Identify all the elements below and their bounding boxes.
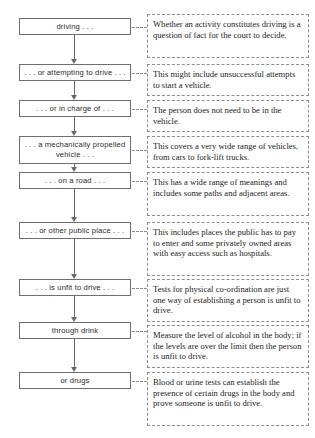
arrow-head-icon xyxy=(71,131,77,136)
connector-drugs xyxy=(132,381,147,382)
flow-box-mechanically-propelled-vehicle[interactable]: . . . a mechanically propelled vehicle .… xyxy=(19,136,131,164)
note-text: Blood or urine tests can establish the p… xyxy=(153,377,303,409)
connector-in-charge xyxy=(132,109,147,110)
flow-box-label: driving . . . xyxy=(57,22,94,32)
flow-box-or-drugs[interactable]: or drugs xyxy=(19,372,131,389)
flow-box-driving[interactable]: driving . . . xyxy=(19,18,131,35)
flow-box-unfit-to-drive[interactable]: . . . is unfit to drive . . . xyxy=(19,279,131,296)
flow-box-label: . . . a mechanically propelled vehicle .… xyxy=(25,140,126,160)
arrow-unfit-to-drink xyxy=(74,296,75,317)
flow-box-label: through drink xyxy=(52,326,98,336)
flow-box-label: . . . or other public place . . . xyxy=(26,226,125,236)
flow-box-through-drink[interactable]: through drink xyxy=(19,322,131,339)
arrow-head-icon xyxy=(71,367,77,372)
connector-driving xyxy=(132,27,147,28)
arrow-head-icon xyxy=(71,274,77,279)
arrow-head-icon xyxy=(71,217,77,222)
arrow-attempting-to-in-charge xyxy=(74,81,75,95)
flow-box-label: . . . on a road . . . xyxy=(45,176,106,186)
arrow-drink-to-drugs xyxy=(74,339,75,367)
note-text: Measure the level of alcohol in the body… xyxy=(153,330,303,362)
connector-public-place xyxy=(132,231,147,232)
arrow-driving-to-attempting xyxy=(74,35,75,59)
arrow-road-to-public-place xyxy=(74,189,75,217)
flow-box-in-charge-of[interactable]: . . . or in charge of . . . xyxy=(19,100,131,117)
note-text: Whether an activity constitutes driving … xyxy=(153,19,303,40)
arrow-head-icon xyxy=(71,167,77,172)
flow-box-on-a-road[interactable]: . . . on a road . . . xyxy=(19,172,131,189)
arrow-head-icon xyxy=(71,317,77,322)
connector-unfit xyxy=(132,288,147,289)
connector-drink xyxy=(132,331,147,332)
flow-box-label: . . . is unfit to drive . . . xyxy=(36,283,115,293)
connector-attempting xyxy=(132,73,147,74)
flowchart-diagram: driving . . . . . . or attempting to dri… xyxy=(0,0,315,438)
note-box-unfit: Tests for physical co-ordination are jus… xyxy=(147,279,309,322)
flow-box-label: . . . or in charge of . . . xyxy=(36,104,114,114)
arrow-in-charge-to-vehicle xyxy=(74,117,75,131)
note-box-attempting: This might include unsuccessful attempts… xyxy=(147,64,309,96)
note-text: Tests for physical co-ordination are jus… xyxy=(153,284,303,316)
note-box-drink: Measure the level of alcohol in the body… xyxy=(147,325,309,368)
flow-box-other-public-place[interactable]: . . . or other public place . . . xyxy=(19,222,131,239)
connector-road xyxy=(132,181,147,182)
note-box-in-charge: The person does not need to be in the ve… xyxy=(147,100,309,132)
note-box-road: This has a wide range of meanings and in… xyxy=(147,172,309,216)
note-box-vehicle: This covers a very wide range of vehicle… xyxy=(147,136,309,168)
note-text: This might include unsuccessful attempts… xyxy=(153,69,303,90)
note-box-driving: Whether an activity constitutes driving … xyxy=(147,14,309,58)
note-text: This includes places the public has to p… xyxy=(153,227,303,259)
flow-box-label: or drugs xyxy=(60,376,89,386)
flow-box-label: . . . or attempting to drive . . . xyxy=(24,68,126,78)
note-text: This covers a very wide range of vehicle… xyxy=(153,141,303,162)
note-text: The person does not need to be in the ve… xyxy=(153,105,303,126)
arrow-public-place-to-unfit xyxy=(74,239,75,274)
connector-vehicle xyxy=(132,150,147,151)
arrow-head-icon xyxy=(71,59,77,64)
note-box-public-place: This includes places the public has to p… xyxy=(147,222,309,276)
arrow-head-icon xyxy=(71,95,77,100)
flow-box-attempting-to-drive[interactable]: . . . or attempting to drive . . . xyxy=(19,64,131,81)
note-text: This has a wide range of meanings and in… xyxy=(153,177,303,198)
note-box-drugs: Blood or urine tests can establish the p… xyxy=(147,372,309,426)
